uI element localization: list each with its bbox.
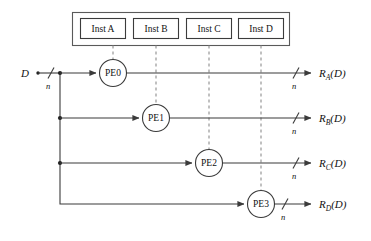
inst-box-d-label: Inst D xyxy=(249,24,273,34)
pe3-label: PE3 xyxy=(253,199,269,209)
pe1-label: PE1 xyxy=(148,113,164,123)
output-label-b: RB(D) xyxy=(318,112,346,127)
inst-box-c-label: Inst C xyxy=(198,24,221,34)
output-label-a: RA(D) xyxy=(318,67,346,82)
input-label-d: D xyxy=(20,67,29,79)
distribution-bus xyxy=(60,73,196,204)
output-d-arg: (D) xyxy=(331,198,347,211)
output-c-arg: (D) xyxy=(331,157,347,170)
pe1-output-bus-width-label: n xyxy=(292,126,296,136)
pe0-label: PE0 xyxy=(105,68,121,78)
input-bus-width-label: n xyxy=(46,81,50,91)
output-a-arg: (D) xyxy=(330,67,346,80)
output-label-d: RD(D) xyxy=(318,198,347,213)
pe0-output-bus-width-label: n xyxy=(292,81,296,91)
inst-box-b-label: Inst B xyxy=(145,24,168,34)
pe3-output-bus-width-label: n xyxy=(281,212,285,222)
diagram-canvas: Inst A Inst B Inst C Inst D D n PE0 n RA… xyxy=(0,0,371,241)
pe2-output-bus-width-label: n xyxy=(292,171,296,181)
diagram-svg: Inst A Inst B Inst C Inst D D n PE0 n RA… xyxy=(0,0,371,241)
output-label-c: RC(D) xyxy=(318,157,346,172)
output-b-arg: (D) xyxy=(330,112,346,125)
inst-box-a-label: Inst A xyxy=(92,24,115,34)
pe2-label: PE2 xyxy=(201,158,217,168)
